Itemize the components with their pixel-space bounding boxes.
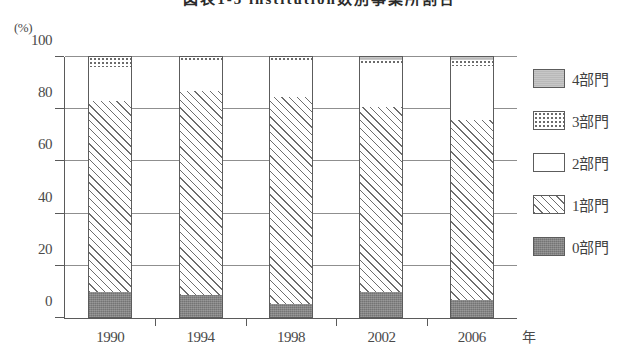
bar-segment-1部門[interactable]	[269, 96, 313, 303]
y-axis-tick	[55, 108, 64, 109]
bar-segment-4部門[interactable]	[359, 56, 403, 60]
plot-area: 02040608010019901994199820022006	[64, 57, 517, 319]
chart-title: 図表1-3 institution数別事業所割合	[0, 0, 639, 8]
legend-item-3部門[interactable]: 3部門	[533, 99, 633, 141]
legend-swatch-1部門	[533, 195, 565, 214]
bar-2006[interactable]	[450, 57, 494, 318]
bar-segment-3部門[interactable]	[179, 56, 223, 62]
legend-item-4部門[interactable]: 4部門	[533, 57, 633, 99]
legend-label: 0部門	[572, 236, 608, 257]
x-axis-tick	[155, 318, 156, 326]
legend-item-1部門[interactable]: 1部門	[533, 183, 633, 225]
legend-swatch-4部門	[533, 69, 565, 88]
x-axis-tick	[336, 318, 337, 326]
bar-segment-2部門[interactable]	[359, 64, 403, 107]
y-axis-unit-label: (%)	[14, 20, 32, 36]
bar-segment-1部門[interactable]	[88, 100, 132, 292]
y-axis-tick	[55, 56, 64, 57]
bar-segment-0部門[interactable]	[179, 294, 223, 318]
bar-segment-0部門[interactable]	[88, 291, 132, 318]
bar-segment-0部門[interactable]	[359, 291, 403, 318]
bar-segment-3部門[interactable]	[88, 56, 132, 67]
bar-segment-2部門[interactable]	[269, 61, 313, 97]
legend-swatch-0部門	[533, 237, 565, 256]
y-axis-label: 40	[38, 188, 52, 205]
legend-item-2部門[interactable]: 2部門	[533, 141, 633, 183]
legend-item-0部門[interactable]: 0部門	[533, 225, 633, 267]
x-axis-tick	[246, 318, 247, 326]
bar-segment-0部門[interactable]	[450, 299, 494, 318]
bar-segment-3部門[interactable]	[269, 56, 313, 62]
bar-segment-2部門[interactable]	[179, 61, 223, 91]
legend-label: 1部門	[572, 194, 608, 215]
y-axis-label: 60	[38, 136, 52, 153]
bar-1998[interactable]	[269, 57, 313, 318]
bar-1994[interactable]	[179, 57, 223, 318]
y-axis-label: 0	[45, 293, 52, 310]
x-axis-label-2002: 2002	[367, 329, 395, 346]
legend-label: 3部門	[572, 110, 608, 131]
x-axis-label-1994: 1994	[187, 329, 215, 346]
bar-1990[interactable]	[88, 57, 132, 318]
y-axis-tick	[55, 160, 64, 161]
y-axis-tick	[55, 317, 64, 318]
bar-segment-1部門[interactable]	[179, 90, 223, 295]
y-axis-tick	[55, 265, 64, 266]
bar-segment-1部門[interactable]	[359, 106, 403, 292]
x-axis-label-1998: 1998	[277, 329, 305, 346]
bar-segment-1部門[interactable]	[450, 119, 494, 300]
bar-segment-2部門[interactable]	[450, 65, 494, 120]
y-axis-tick	[55, 213, 64, 214]
legend-label: 2部門	[572, 152, 608, 173]
x-axis-tick	[427, 318, 428, 326]
bar-segment-2部門[interactable]	[88, 66, 132, 101]
x-axis-label-1990: 1990	[96, 329, 124, 346]
bar-segment-4部門[interactable]	[450, 56, 494, 60]
bar-segment-0部門[interactable]	[269, 303, 313, 318]
x-axis-unit-label: 年	[522, 326, 536, 346]
y-axis-label: 80	[38, 84, 52, 101]
bar-2002[interactable]	[359, 57, 403, 318]
y-axis-label: 100	[31, 32, 52, 49]
x-axis-label-2006: 2006	[458, 329, 486, 346]
chart-legend: 4部門3部門2部門1部門0部門	[533, 57, 633, 267]
y-axis-label: 20	[38, 240, 52, 257]
legend-swatch-2部門	[533, 153, 565, 172]
legend-swatch-3部門	[533, 111, 565, 130]
legend-label: 4部門	[572, 68, 608, 89]
bar-segment-3部門[interactable]	[450, 59, 494, 67]
